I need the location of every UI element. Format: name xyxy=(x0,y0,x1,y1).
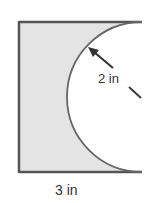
radius-tail xyxy=(129,87,141,98)
diagram-canvas: 2 in 3 in xyxy=(0,0,152,203)
radius-label: 2 in xyxy=(98,71,119,86)
width-label: 3 in xyxy=(55,182,78,198)
radius-arrow-shaft xyxy=(94,52,113,68)
shaded-region xyxy=(19,22,142,172)
